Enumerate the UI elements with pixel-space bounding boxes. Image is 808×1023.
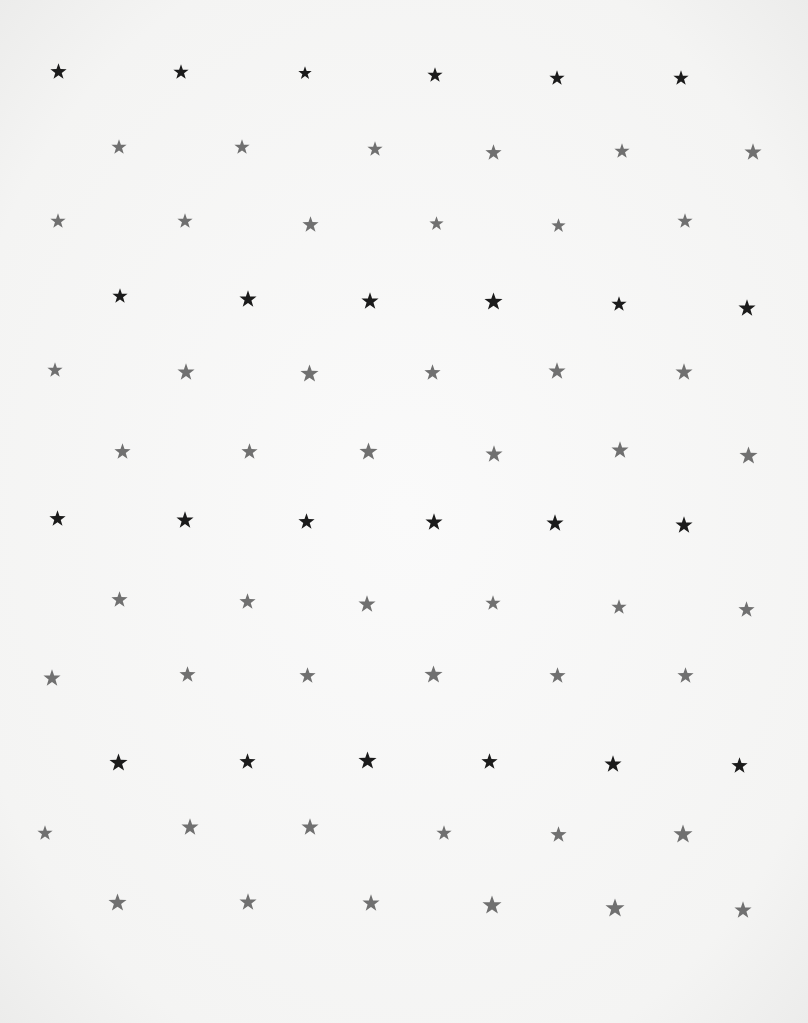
star-icon <box>425 513 443 531</box>
star-icon <box>424 364 441 381</box>
star-icon <box>481 753 498 770</box>
star-icon <box>361 292 379 310</box>
star-icon <box>302 216 319 233</box>
star-icon <box>298 513 315 530</box>
star-icon <box>298 66 312 80</box>
star-icon <box>675 363 693 381</box>
star-icon <box>359 442 378 461</box>
star-icon <box>49 510 66 527</box>
star-icon <box>177 213 193 229</box>
star-icon <box>424 665 443 684</box>
star-icon <box>482 895 502 915</box>
star-icon <box>485 595 501 611</box>
star-icon <box>731 757 748 774</box>
star-icon <box>614 143 630 159</box>
star-icon <box>485 445 503 463</box>
star-icon <box>176 511 194 529</box>
star-icon <box>179 666 196 683</box>
star-icon <box>111 139 127 155</box>
star-icon <box>358 595 376 613</box>
star-icon <box>300 364 319 383</box>
star-icon <box>109 753 128 772</box>
star-icon <box>111 591 128 608</box>
star-icon <box>675 516 693 534</box>
star-icon <box>677 213 693 229</box>
star-icon <box>239 893 257 911</box>
star-icon <box>362 894 380 912</box>
star-icon <box>604 755 622 773</box>
star-icon <box>484 292 503 311</box>
star-icon <box>358 751 377 770</box>
star-icon <box>239 290 257 308</box>
star-icon <box>546 514 564 532</box>
star-icon <box>50 213 66 229</box>
star-icon <box>677 667 694 684</box>
star-icon <box>241 443 258 460</box>
star-icon <box>738 299 756 317</box>
star-icon <box>108 893 127 912</box>
paper-background <box>0 0 808 1023</box>
star-icon <box>239 593 256 610</box>
star-icon <box>548 362 566 380</box>
star-icon <box>739 446 758 465</box>
star-icon <box>485 144 502 161</box>
star-icon <box>173 64 189 80</box>
star-icon <box>234 139 250 155</box>
star-icon <box>611 441 629 459</box>
star-icon <box>43 669 61 687</box>
star-icon <box>427 67 443 83</box>
star-icon <box>50 63 67 80</box>
star-icon <box>181 818 199 836</box>
star-icon <box>673 824 693 844</box>
star-icon <box>744 143 762 161</box>
star-icon <box>611 296 627 312</box>
star-icon <box>429 216 444 231</box>
star-icon <box>239 753 256 770</box>
star-icon <box>549 667 566 684</box>
star-icon <box>37 825 53 841</box>
star-icon <box>301 818 319 836</box>
star-icon <box>367 141 383 157</box>
star-icon <box>47 362 63 378</box>
star-icon <box>605 898 625 918</box>
star-icon <box>177 363 195 381</box>
star-icon <box>549 70 565 86</box>
star-icon <box>112 288 128 304</box>
star-icon <box>550 826 567 843</box>
star-icon <box>299 667 316 684</box>
star-icon <box>734 901 752 919</box>
star-icon <box>611 599 627 615</box>
star-icon <box>738 601 755 618</box>
star-icon <box>551 218 566 233</box>
star-icon <box>673 70 689 86</box>
star-icon <box>436 825 452 841</box>
star-icon <box>114 443 131 460</box>
